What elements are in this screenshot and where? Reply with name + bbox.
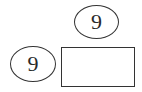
top-number-label: 9 — [91, 11, 102, 33]
answer-box — [61, 47, 135, 87]
left-number-circle: 9 — [10, 46, 56, 82]
left-number-label: 9 — [28, 53, 39, 75]
top-number-circle: 9 — [74, 5, 119, 39]
